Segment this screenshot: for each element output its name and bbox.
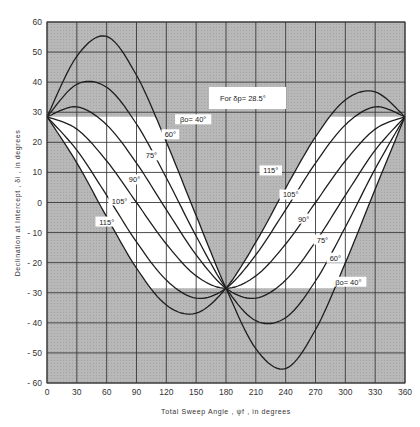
x-axis-ticks: 0306090120150180210240270300330360: [45, 387, 413, 397]
annotation-text: For δp= 28.5°: [220, 94, 266, 103]
x-tick-label: 150: [189, 387, 203, 397]
x-tick-label: 240: [279, 387, 293, 397]
x-tick-label: 60: [102, 387, 112, 397]
y-tick-label: - 50: [27, 348, 42, 358]
curve-label: 105°: [112, 197, 128, 206]
curve-label: βo= 40°: [180, 115, 206, 124]
y-axis-title: Declination at Intercept , δi , in degre…: [14, 130, 22, 277]
x-tick-label: 120: [159, 387, 173, 397]
curve-label: 90°: [129, 175, 140, 184]
x-tick-label: 210: [249, 387, 263, 397]
curve-label: 90°: [298, 215, 309, 224]
x-tick-label: 300: [338, 387, 352, 397]
y-tick-label: 30: [33, 107, 43, 117]
y-tick-label: - 30: [27, 288, 42, 298]
curve-label: 115°: [99, 218, 114, 227]
annotation-box: For δp= 28.5°: [209, 87, 286, 109]
x-tick-label: 0: [45, 387, 50, 397]
curve-label: 60°: [330, 254, 341, 263]
y-tick-label: - 40: [27, 318, 42, 328]
plot-area: [47, 22, 405, 383]
y-tick-label: - 10: [27, 228, 42, 238]
curve-label: 105°: [283, 190, 299, 199]
x-tick-label: 360: [398, 387, 412, 397]
x-tick-label: 270: [308, 387, 322, 397]
y-tick-label: 50: [33, 47, 43, 57]
x-tick-label: 30: [72, 387, 82, 397]
curve-label: 115°: [263, 166, 278, 175]
y-tick-label: - 20: [27, 258, 42, 268]
curve-label: βo= 40°: [335, 278, 361, 287]
y-tick-label: 40: [33, 77, 43, 87]
x-axis-title: Total Sweep Angle , ψf , in degrees: [161, 408, 291, 416]
declination-chart: 6050403020100- 10- 20- 30- 40- 50- 60 03…: [0, 0, 420, 427]
x-tick-label: 330: [368, 387, 382, 397]
y-tick-label: 20: [33, 137, 43, 147]
curve-label: 75°: [317, 236, 328, 245]
y-axis-ticks: 6050403020100- 10- 20- 30- 40- 50- 60: [27, 17, 42, 388]
curve-label: 75°: [146, 151, 157, 160]
x-tick-label: 90: [132, 387, 142, 397]
y-tick-label: 0: [37, 198, 42, 208]
y-tick-label: 60: [33, 17, 43, 27]
x-tick-label: 180: [219, 387, 233, 397]
y-tick-label: - 60: [27, 378, 42, 388]
y-tick-label: 10: [33, 167, 43, 177]
curve-label: 60°: [165, 130, 176, 139]
